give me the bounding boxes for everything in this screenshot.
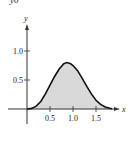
y-axis-arrow-icon [25, 24, 29, 30]
area-chart: 0.51.01.5 0.51.0 x y [0, 0, 128, 144]
y-tick-label: 1.0 [13, 47, 23, 56]
y-tick-label: 0.5 [13, 76, 23, 85]
x-axis-label: x [121, 105, 126, 114]
x-tick-label: 0.5 [45, 114, 55, 123]
x-tick-label: 1.0 [68, 114, 78, 123]
y-axis-label: y [23, 14, 28, 23]
x-tick-label: 1.5 [91, 114, 101, 123]
x-axis-arrow-icon [114, 107, 120, 111]
